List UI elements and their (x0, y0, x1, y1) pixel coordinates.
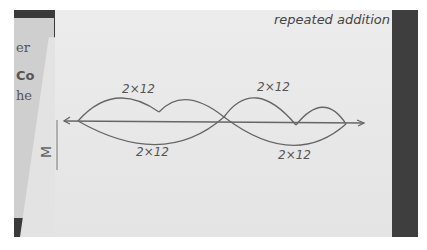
bottom-label-1: 2×12 (136, 145, 169, 159)
photo: er Co he repeated addition M 2×12 2×12 2… (14, 10, 418, 237)
top-label-1: 2×12 (122, 82, 155, 96)
number-line-diagram: M (14, 10, 418, 237)
bottom-label-2: 2×12 (278, 148, 311, 162)
slanted-paper-glyph: M (38, 146, 54, 158)
top-label-2: 2×12 (257, 80, 290, 94)
